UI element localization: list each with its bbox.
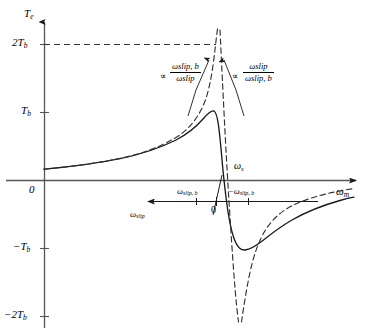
x-axis-label: ωm	[336, 186, 349, 199]
sync-speed-label: ωs	[234, 161, 244, 173]
right-slip-ratio-fraction: ωslip ωslip, b	[243, 62, 274, 84]
y-tick-label-neg-Tb: −Tb	[13, 241, 30, 254]
right-proportional-symbol: ∝	[232, 71, 238, 81]
slip-origin-label: 0	[211, 205, 216, 215]
y-tick-label-neg-2Tb: −2Tb	[4, 309, 27, 322]
slip-tick-label-negative: −ωslip, b	[228, 186, 254, 196]
chart-canvas	[0, 0, 376, 331]
left-slip-ratio-fraction: ωslip, b ωslip	[170, 62, 201, 84]
right-fraction-denominator: ωslip, b	[243, 74, 274, 84]
slip-tick-label-positive: ωslip, b	[177, 186, 198, 196]
left-proportional-symbol: ∝	[160, 71, 166, 81]
right-fraction-numerator: ωslip	[243, 62, 274, 72]
y-tick-label-Tb: Tb	[21, 105, 31, 118]
dashed-characteristic-curve-left	[44, 29, 218, 170]
torque-speed-chart: Te ωm 2Tb Tb 0 −Tb −2Tb ωs 0 ωslip ωslip…	[0, 0, 376, 331]
annotation-arrow-right-lower	[236, 90, 244, 116]
left-fraction-numerator: ωslip, b	[170, 62, 201, 72]
y-tick-label-zero: 0	[29, 184, 35, 195]
slip-axis-label: ωslip	[130, 209, 145, 219]
y-axis-label: Te	[24, 8, 33, 21]
left-fraction-denominator: ωslip	[170, 74, 201, 84]
y-tick-label-2Tb: 2Tb	[12, 37, 27, 50]
dashed-characteristic-curve-recovery	[242, 189, 355, 323]
annotation-arrow-left-lower	[188, 90, 196, 116]
